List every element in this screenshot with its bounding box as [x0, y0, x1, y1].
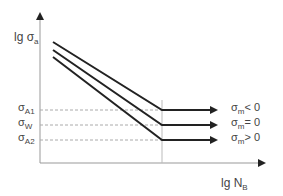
- curve-sigma-m-positive: [53, 57, 216, 140]
- condition-label-mean-stress-positive: σm> 0: [231, 132, 260, 146]
- y-axis-label: lg σa: [14, 31, 39, 46]
- x-axis-label: lg NB: [221, 177, 248, 192]
- level-label-sigma-a1: σA1: [18, 102, 35, 116]
- level-label-sigma-a2: σA2: [18, 132, 35, 146]
- condition-label-mean-stress-zero: σm= 0: [231, 117, 260, 131]
- curve-sigma-m-zero: [53, 50, 216, 125]
- level-label-sigma-w: σW: [18, 117, 32, 131]
- condition-label-mean-stress-negative: σm< 0: [231, 102, 260, 116]
- sn-diagram: [0, 0, 283, 196]
